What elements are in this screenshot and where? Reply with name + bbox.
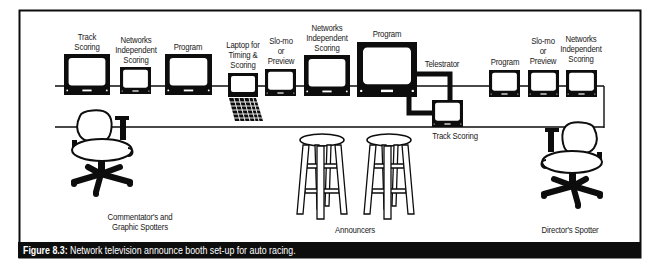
monitor-program-right xyxy=(489,70,520,97)
label-commentators-graphic-spotters: Commentator's and Graphic Spotters xyxy=(99,212,181,232)
stool-announcer-2 xyxy=(364,134,414,219)
monitor-program-large xyxy=(357,42,417,97)
laptop-icon xyxy=(228,73,263,121)
stool-announcer-1 xyxy=(297,134,347,219)
label-networks-independent-scoring-right: Networks Independent Scoring xyxy=(556,34,607,64)
chair-commentator-2 xyxy=(541,122,603,209)
label-track-scoring-2: Track Scoring xyxy=(426,131,483,141)
figure-caption: Figure 8.3: Network television announce … xyxy=(18,242,641,258)
monitor-telestrator-track-scoring xyxy=(432,100,463,127)
label-directors-spotter: Director's Spotter xyxy=(529,225,611,235)
label-telestrator: Telestrator xyxy=(417,59,466,69)
label-program-large: Program xyxy=(362,29,411,39)
label-networks-independent-scoring: Networks Independent Scoring xyxy=(111,35,162,65)
label-program-right: Program xyxy=(485,57,526,67)
caption-number: Figure 8.3: xyxy=(23,244,68,256)
label-slo-mo-preview: Slo-mo or Preview xyxy=(261,36,302,66)
monitor-networks-independent-scoring xyxy=(120,67,151,94)
monitor-program xyxy=(165,54,212,95)
monitor-networks-independent-scoring-2 xyxy=(304,55,350,96)
monitor-track-scoring xyxy=(64,54,110,95)
label-announcers: Announcers xyxy=(318,225,392,235)
caption-text: Network television announce booth set-up… xyxy=(68,244,296,256)
monitor-slo-mo-preview-right xyxy=(528,70,559,97)
label-program: Program xyxy=(163,42,212,52)
chair-commentator-1 xyxy=(71,110,133,197)
booth-diagram: Track Scoring Networks Independent Scori… xyxy=(0,0,657,273)
monitor-networks-independent-scoring-right xyxy=(566,70,597,97)
monitor-slo-mo-preview xyxy=(265,69,296,96)
label-networks-independent-scoring-2: Networks Independent Scoring xyxy=(302,23,353,53)
label-track-scoring: Track Scoring xyxy=(62,32,111,52)
